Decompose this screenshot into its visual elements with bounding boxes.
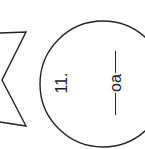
item-number: 11. [54, 72, 70, 93]
blank-line-right[interactable] [115, 51, 116, 73]
blank-letters: oa [107, 74, 124, 92]
blank-line-left[interactable] [115, 93, 116, 115]
fill-in-blank[interactable]: oa [108, 50, 124, 116]
star-shape-fragment [0, 32, 26, 126]
